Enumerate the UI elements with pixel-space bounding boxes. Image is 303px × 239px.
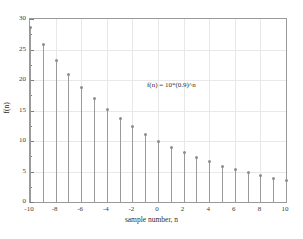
stem-line xyxy=(248,173,249,202)
data-point-marker xyxy=(29,26,32,29)
data-point-marker xyxy=(67,73,70,76)
data-point-marker xyxy=(285,179,288,182)
data-point-marker xyxy=(170,146,173,149)
x-axis-tick-label: 2 xyxy=(170,206,196,213)
stem-line xyxy=(171,147,172,202)
stem-line xyxy=(145,134,146,202)
data-point-marker xyxy=(272,177,275,180)
stem-line xyxy=(30,28,31,202)
data-point-marker xyxy=(106,108,109,111)
stem-line xyxy=(196,157,197,202)
data-point-marker xyxy=(42,43,45,46)
stem-line xyxy=(158,141,159,202)
data-point-marker xyxy=(144,133,147,136)
stem-line xyxy=(209,162,210,202)
stem-line xyxy=(56,60,57,202)
y-axis-tick-label: 20 xyxy=(2,76,26,83)
y-axis-tick-label: 0 xyxy=(2,198,26,205)
x-axis-tick-label: -4 xyxy=(93,206,119,213)
equation-annotation: f(n) = 10*(0.9)^n xyxy=(147,82,196,89)
stem-line xyxy=(260,176,261,202)
y-axis-tick-label: 25 xyxy=(2,46,26,53)
y-axis-tick-label: 30 xyxy=(2,15,26,22)
x-axis-tick-label: -2 xyxy=(118,206,144,213)
x-axis-tick-label: 10 xyxy=(272,206,298,213)
data-point-marker xyxy=(234,168,237,171)
y-axis-tick xyxy=(30,202,34,203)
stem-line xyxy=(286,181,287,202)
data-point-marker xyxy=(259,174,262,177)
stem-line xyxy=(235,170,236,202)
y-axis-tick-label: 15 xyxy=(2,107,26,114)
y-axis-tick xyxy=(30,19,34,20)
data-point-marker xyxy=(247,171,250,174)
data-point-marker xyxy=(183,151,186,154)
x-axis-tick-label: -6 xyxy=(67,206,93,213)
x-axis-title: sample number, n xyxy=(0,216,303,224)
stem-line xyxy=(68,75,69,202)
y-axis-tick-label: 5 xyxy=(2,168,26,175)
data-point-marker xyxy=(157,140,160,143)
figure-canvas: f(n) = 10*(0.9)^n sample number, n f(n) … xyxy=(0,0,303,239)
stem-line xyxy=(273,178,274,202)
stem-line xyxy=(94,99,95,202)
stem-line xyxy=(81,87,82,202)
x-axis-tick-label: -10 xyxy=(16,206,42,213)
stem-line xyxy=(120,118,121,202)
data-point-marker xyxy=(208,160,211,163)
data-point-marker xyxy=(195,156,198,159)
x-axis-tick-label: 8 xyxy=(246,206,272,213)
x-axis-tick-label: 6 xyxy=(221,206,247,213)
y-axis-tick-label: 10 xyxy=(2,137,26,144)
stem-line xyxy=(107,109,108,202)
stem-line xyxy=(222,166,223,202)
stem-line xyxy=(43,45,44,202)
x-axis-tick-label: 0 xyxy=(144,206,170,213)
x-axis-tick-label: 4 xyxy=(195,206,221,213)
stem-line xyxy=(184,153,185,202)
stem-line xyxy=(132,127,133,202)
x-axis-tick-label: -8 xyxy=(42,206,68,213)
data-point-marker xyxy=(80,86,83,89)
data-point-marker xyxy=(55,59,58,62)
plot-area xyxy=(29,18,287,203)
data-point-marker xyxy=(221,165,224,168)
data-point-marker xyxy=(93,97,96,100)
data-point-marker xyxy=(119,117,122,120)
